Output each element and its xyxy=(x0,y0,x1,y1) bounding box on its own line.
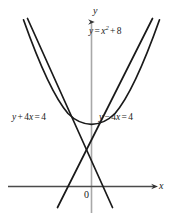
line-left-rhs: 4 xyxy=(41,112,46,122)
line-right-equation-label: y−4x=4 xyxy=(99,113,133,123)
y-axis-label: y xyxy=(93,6,98,16)
plot-canvas xyxy=(0,0,170,215)
parabola-equals: = xyxy=(93,26,101,36)
line-right-op: − xyxy=(103,112,111,122)
x-axis-label: x xyxy=(159,181,164,191)
parabola-constant: 8 xyxy=(117,26,122,36)
line-left-equation-label: y+4x=4 xyxy=(12,113,46,123)
parabola-tangent-lines-figure: y x 0 y=x2+8 y+4x=4 y−4x=4 xyxy=(0,0,170,215)
line-left-op: + xyxy=(16,112,24,122)
line-right-rhs: 4 xyxy=(128,112,133,122)
parabola-equation-label: y=x2+8 xyxy=(89,27,122,37)
parabola-plus: + xyxy=(109,26,117,36)
origin-label: 0 xyxy=(84,190,89,200)
